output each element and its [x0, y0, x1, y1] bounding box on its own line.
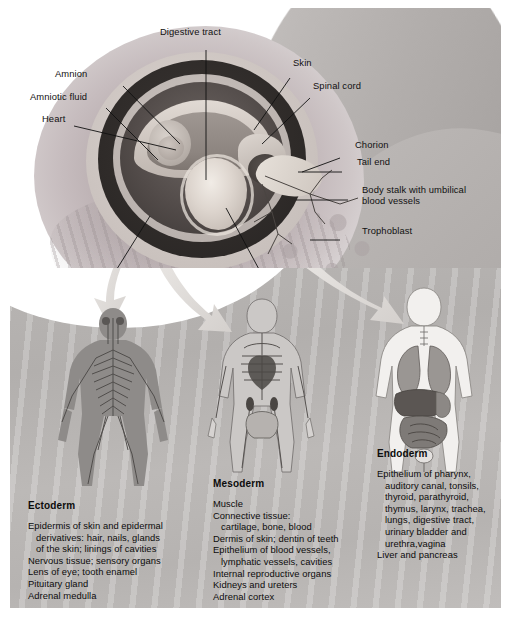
label-body-stalk-line2: blood vessels — [362, 195, 420, 206]
germ-layer-derivative-panel: Ectoderm Epidermis of skin and epidermal… — [10, 268, 501, 608]
leader-spinal-cord — [262, 98, 310, 144]
label-amnion: Amnion — [55, 68, 87, 79]
label-skin: Skin — [293, 57, 312, 68]
leader-heart — [74, 126, 176, 150]
label-amniotic-fluid: Amniotic fluid — [30, 91, 87, 102]
endoderm-heading: Endoderm — [377, 448, 428, 459]
label-tail-end: Tail end — [357, 156, 390, 167]
endoderm-derivative-list: Epithelium of pharynx, auditory canal, t… — [377, 468, 486, 561]
label-trophoblast: Trophoblast — [362, 225, 412, 236]
ectoderm-heading: Ectoderm — [28, 500, 75, 511]
nervous-system-figure — [48, 304, 178, 489]
germ-layer-figure: Digestive tract Skin Spinal cord Amnion … — [0, 0, 511, 629]
mesoderm-derivative-list: Muscle Connective tissue: cartilage, bon… — [213, 498, 339, 602]
label-body-stalk-line1: Body stalk with umbilical — [362, 184, 466, 195]
ectoderm-derivative-list: Epidermis of skin and epidermal derivati… — [28, 520, 163, 601]
mesoderm-heading: Mesoderm — [213, 478, 264, 489]
embryo-illustration — [10, 8, 501, 308]
label-leader-lines — [10, 8, 501, 308]
leader-amniotic-fluid — [106, 108, 158, 160]
label-digestive-tract: Digestive tract — [160, 26, 221, 37]
label-heart: Heart — [42, 113, 65, 124]
leader-amnion — [123, 86, 180, 144]
skeleton-muscle-figure — [206, 296, 318, 474]
internal-organs-figure — [362, 284, 486, 474]
label-chorion: Chorion — [355, 139, 389, 150]
label-spinal-cord: Spinal cord — [313, 80, 361, 91]
leader-chorion — [302, 158, 340, 172]
